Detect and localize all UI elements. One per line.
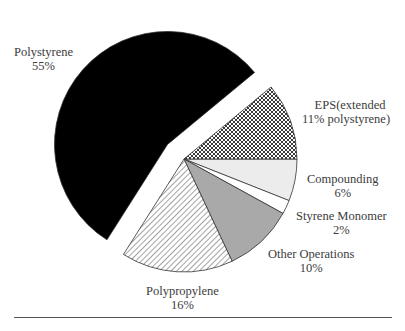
pie-slices <box>54 31 297 272</box>
label-styrene-name: Styrene Monomer <box>296 209 387 223</box>
label-compounding: Compounding 6% <box>307 172 379 200</box>
label-polystyrene-name: Polystyrene <box>14 45 73 59</box>
label-eps-line1: EPS(extended <box>302 98 390 112</box>
label-other-pct: 10% <box>268 261 354 275</box>
label-eps: EPS(extended 11% polystyrene) <box>302 98 390 126</box>
label-styrene-pct: 2% <box>296 223 387 237</box>
label-polystyrene: Polystyrene 55% <box>14 45 73 73</box>
label-other-operations: Other Operations 10% <box>268 247 354 275</box>
label-polypropylene-pct: 16% <box>146 298 219 312</box>
label-compounding-name: Compounding <box>307 172 379 186</box>
label-polypropylene: Polypropylene 16% <box>146 284 219 312</box>
label-eps-line2: 11% polystyrene) <box>302 112 390 126</box>
label-other-name: Other Operations <box>268 247 354 261</box>
label-compounding-pct: 6% <box>307 186 379 200</box>
label-polystyrene-pct: 55% <box>14 59 73 73</box>
bottom-rule <box>14 317 392 318</box>
label-polypropylene-name: Polypropylene <box>146 284 219 298</box>
label-styrene-monomer: Styrene Monomer 2% <box>296 209 387 237</box>
